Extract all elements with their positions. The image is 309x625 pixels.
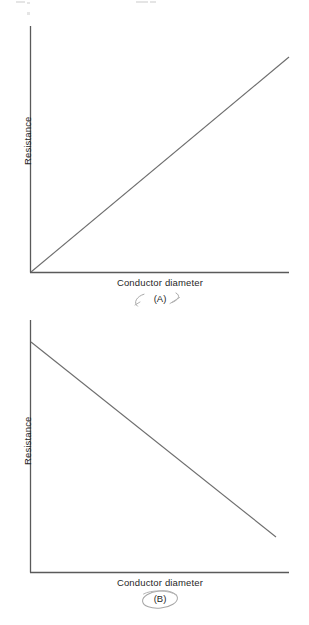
plot-area-a	[0, 0, 309, 312]
y-axis-label-b: Resistance	[22, 417, 33, 466]
data-line-a	[31, 57, 289, 272]
figure-a: Resistance Conductor diameter (A)	[0, 0, 309, 312]
figure-b: Resistance Conductor diameter (B)	[0, 310, 309, 625]
panel-label-b: (B)	[129, 593, 191, 604]
x-axis-label-a: Conductor diameter	[80, 277, 240, 288]
panel-label-a: (A)	[129, 293, 191, 304]
x-axis-label-b: Conductor diameter	[80, 577, 240, 588]
figure-page: Resistance Conductor diameter (A) Resist…	[0, 0, 309, 625]
data-line-b	[31, 342, 276, 537]
panel-tag-b-group: (B)	[129, 589, 191, 611]
y-axis-label-a: Resistance	[22, 117, 33, 166]
panel-tag-a-group: (A)	[129, 289, 191, 311]
